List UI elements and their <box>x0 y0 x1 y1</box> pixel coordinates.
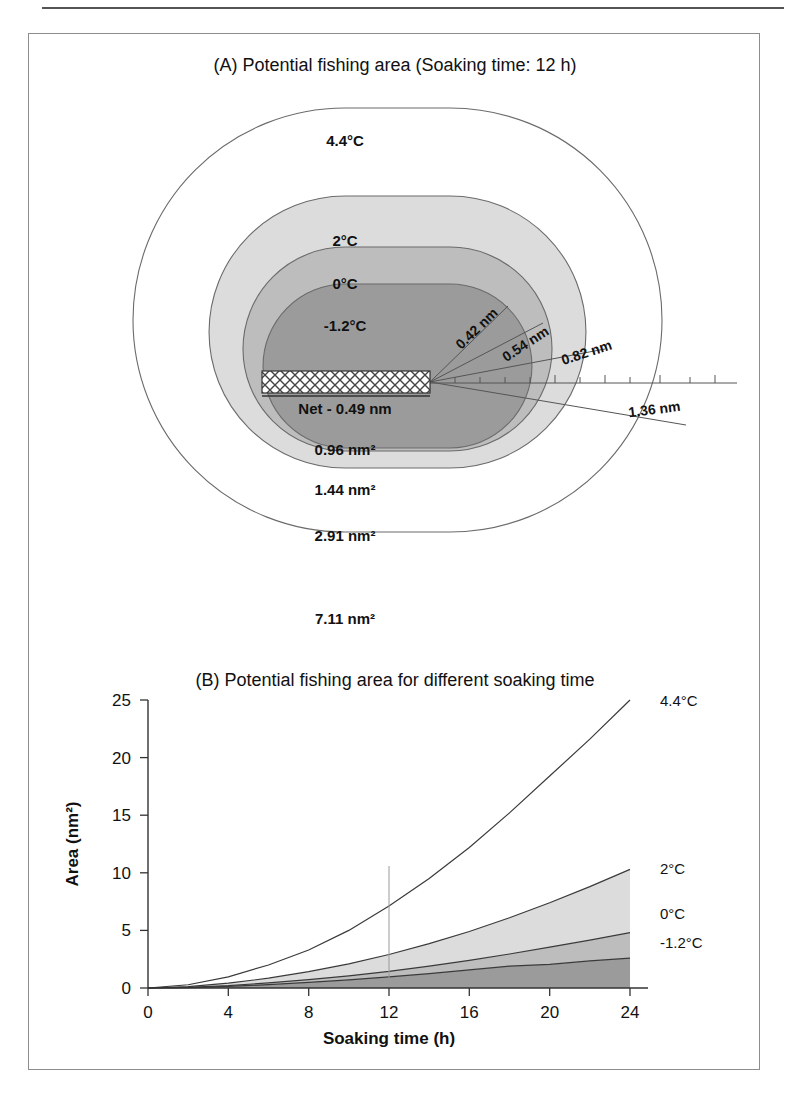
y-axis-title: Area (nm²) <box>63 801 82 886</box>
panel-a: (A) Potential fishing area (Soaking time… <box>133 55 737 627</box>
area-label-0-96: 0.96 nm² <box>315 441 376 458</box>
contour-label-2c: 2°C <box>332 232 357 249</box>
panel-a-title: (A) Potential fishing area (Soaking time… <box>213 55 576 75</box>
curve-label-0c: 0°C <box>660 905 685 922</box>
curve-label-2c: 2°C <box>660 860 685 877</box>
y-tick-25: 25 <box>112 691 131 710</box>
curve-label-minus-1-2c: -1.2°C <box>660 934 703 951</box>
x-axis-title: Soaking time (h) <box>323 1029 455 1048</box>
net-label: Net - 0.49 nm <box>298 400 391 417</box>
x-tick-12: 12 <box>380 1003 399 1022</box>
contour-label-4-4c: 4.4°C <box>326 132 364 149</box>
panel-b-title: (B) Potential fishing area for different… <box>196 670 595 690</box>
y-tick-0: 0 <box>122 979 131 998</box>
y-tick-10: 10 <box>112 864 131 883</box>
contour-label-0c: 0°C <box>332 275 357 292</box>
contour-label-minus-1-2c: -1.2°C <box>324 317 367 334</box>
x-tick-4: 4 <box>224 1003 233 1022</box>
y-tick-5: 5 <box>122 921 131 940</box>
x-tick-8: 8 <box>304 1003 313 1022</box>
y-tick-20: 20 <box>112 749 131 768</box>
area-label-1-44: 1.44 nm² <box>315 481 376 498</box>
x-tick-24: 24 <box>621 1003 640 1022</box>
curve-label-4-4c: 4.4°C <box>660 692 698 709</box>
x-tick-0: 0 <box>143 1003 152 1022</box>
x-axis-ticks <box>148 988 630 996</box>
y-tick-15: 15 <box>112 806 131 825</box>
net-rectangle <box>262 371 430 393</box>
x-tick-16: 16 <box>460 1003 479 1022</box>
area-label-2-91: 2.91 nm² <box>315 527 376 544</box>
area-label-7-11: 7.11 nm² <box>315 610 375 627</box>
figure-canvas: (A) Potential fishing area (Soaking time… <box>0 0 790 1100</box>
x-tick-20: 20 <box>540 1003 559 1022</box>
y-axis-ticks <box>140 700 148 988</box>
panel-b: (B) Potential fishing area for different… <box>63 670 703 1048</box>
